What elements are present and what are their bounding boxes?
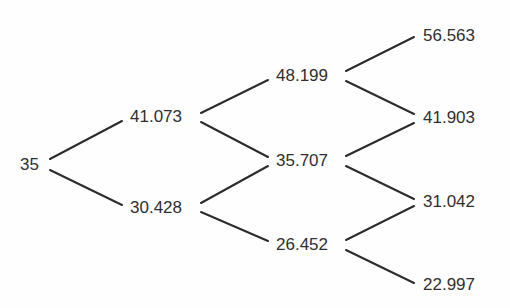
node-step3-uud: 41.903	[423, 108, 475, 128]
edge-35-to-41.073	[50, 121, 122, 159]
edge-48.199-to-41.903	[346, 81, 414, 114]
edge-35.707-to-41.903	[346, 123, 414, 156]
edge-30.428-to-26.452	[201, 212, 268, 241]
node-step2-updown: 35.707	[276, 151, 328, 171]
binomial-tree-diagram: 35 41.073 30.428 48.199 35.707 26.452 56…	[0, 0, 510, 308]
edge-30.428-to-35.707	[201, 166, 268, 203]
node-root: 35	[20, 155, 39, 175]
node-step2-downdown: 26.452	[276, 235, 328, 255]
edge-35.707-to-31.042	[346, 166, 414, 199]
edge-41.073-to-35.707	[201, 122, 268, 157]
edge-26.452-to-22.997	[346, 250, 414, 283]
node-step2-upup: 48.199	[276, 66, 328, 86]
tree-edges	[0, 0, 510, 308]
edge-35-to-30.428	[50, 170, 122, 205]
edge-26.452-to-31.042	[346, 206, 414, 240]
edge-48.199-to-56.563	[346, 37, 414, 71]
node-step3-udd: 31.042	[423, 192, 475, 212]
node-step1-up: 41.073	[130, 107, 182, 127]
node-step3-uuu: 56.563	[423, 26, 475, 46]
edge-41.073-to-48.199	[201, 80, 268, 113]
node-step3-ddd: 22.997	[423, 275, 475, 295]
node-step1-down: 30.428	[130, 198, 182, 218]
